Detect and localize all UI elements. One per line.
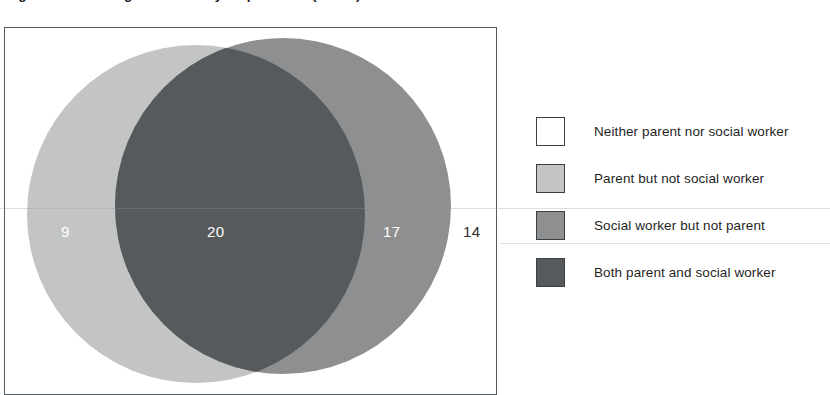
- legend-item-parent-only: Parent but not social worker: [536, 155, 826, 202]
- venn-circle-social-worker: [115, 38, 451, 374]
- legend: Neither parent nor social worker Parent …: [536, 108, 826, 296]
- chart-title: Figure 1: Venn diagram of survey respond…: [6, 0, 526, 5]
- legend-swatch-social-only: [536, 211, 565, 240]
- legend-swatch-parent-only: [536, 164, 565, 193]
- legend-label-both: Both parent and social worker: [594, 265, 776, 280]
- legend-item-neither: Neither parent nor social worker: [536, 108, 826, 155]
- legend-label-neither: Neither parent nor social worker: [594, 124, 789, 139]
- legend-label-parent-only: Parent but not social worker: [594, 171, 764, 186]
- venn-label-parent-only: 9: [61, 223, 70, 240]
- legend-item-social-only: Social worker but not parent: [536, 202, 826, 249]
- venn-label-neither: 14: [463, 223, 480, 240]
- venn-label-social-only: 17: [383, 223, 400, 240]
- legend-swatch-both: [536, 258, 565, 287]
- legend-item-both: Both parent and social worker: [536, 249, 826, 296]
- venn-diagram-plot: 9 20 17 14: [4, 27, 497, 395]
- legend-label-social-only: Social worker but not parent: [594, 218, 765, 233]
- venn-label-both: 20: [207, 223, 224, 240]
- legend-swatch-neither: [536, 117, 565, 146]
